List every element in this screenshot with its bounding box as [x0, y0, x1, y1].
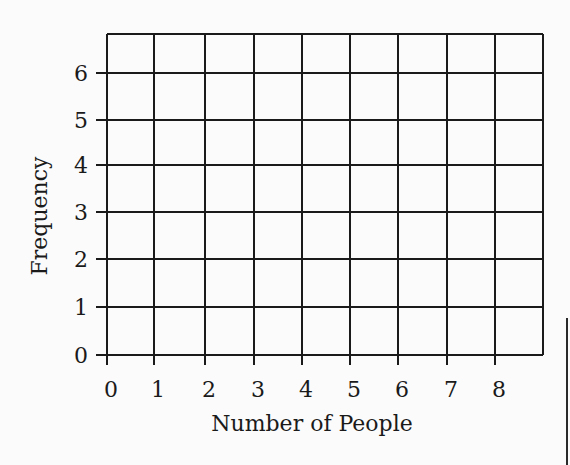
x-tick-label: 8	[492, 377, 506, 402]
x-tick-label: 6	[395, 377, 409, 402]
y-tick-label: 5	[74, 108, 88, 133]
y-tick-label: 2	[74, 247, 88, 272]
y-tick-label: 3	[74, 200, 88, 225]
y-tick-label: 6	[74, 61, 88, 86]
y-axis-label: Frequency	[27, 156, 52, 276]
chart-canvas: 0123456 012345678 Number of People Frequ…	[0, 0, 570, 465]
y-axis-ticks: 0123456	[74, 61, 88, 368]
x-tick-label: 3	[251, 377, 265, 402]
x-tick-label: 5	[347, 377, 361, 402]
y-tick-label: 0	[74, 343, 88, 368]
x-tick-label: 4	[299, 377, 313, 402]
page-edge-divider	[566, 318, 568, 465]
x-axis-label: Number of People	[211, 411, 413, 436]
y-tick-label: 1	[74, 295, 88, 320]
x-tick-label: 7	[444, 377, 458, 402]
y-tick-label: 4	[74, 153, 88, 178]
frequency-chart: 0123456 012345678 Number of People Frequ…	[0, 0, 570, 465]
x-tick-label: 1	[151, 377, 165, 402]
x-tick-label: 2	[202, 377, 216, 402]
x-axis-ticks: 012345678	[104, 377, 506, 402]
chart-grid	[96, 34, 543, 365]
x-tick-label: 0	[104, 377, 118, 402]
